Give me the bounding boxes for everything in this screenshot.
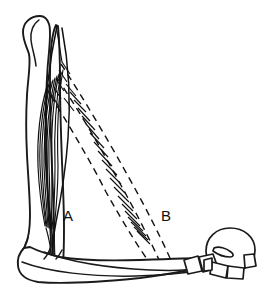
- muscle-b-superior-aponeurosis: [61, 64, 170, 258]
- muscle-b-fiber-band-upper: [66, 84, 104, 148]
- anatomical-figure: A B: [0, 0, 267, 293]
- label-a: A: [63, 207, 73, 224]
- muscle-b-fiber: [82, 116, 95, 130]
- phalanx-segment: [244, 254, 256, 268]
- figure-canvas: A B: [0, 0, 267, 293]
- muscle-b-fiber: [122, 204, 137, 219]
- muscle-b-fiber-band-middle: [94, 142, 133, 211]
- phalanx-segment: [184, 256, 202, 274]
- muscle-b-fiber: [86, 124, 99, 139]
- joint-wedge: [204, 258, 212, 271]
- phalanx-segment: [227, 266, 244, 279]
- muscle-b-inferior-aponeurosis: [51, 96, 152, 266]
- digit-group: [184, 228, 256, 279]
- label-b: B: [161, 207, 171, 224]
